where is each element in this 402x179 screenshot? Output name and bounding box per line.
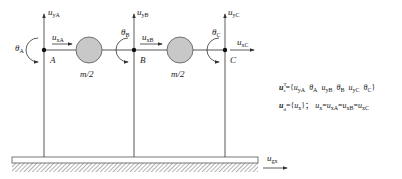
label-uxA: uxA	[52, 33, 64, 43]
label-node-A: A	[50, 56, 56, 65]
ground	[12, 157, 258, 172]
label-uyC: uyC	[228, 8, 240, 18]
label-uxC: uxC	[237, 38, 249, 48]
equation-us: uTs={uyA θA uyB θB uyC θC}	[279, 82, 375, 93]
label-uyB: uyB	[137, 8, 149, 18]
label-thetaA: θA	[15, 44, 24, 54]
mass-2	[167, 37, 193, 63]
label-mass-2: m/2	[171, 70, 185, 79]
label-ground-motion: ugx	[267, 154, 278, 164]
label-thetaB: θB	[121, 28, 129, 38]
mass-1	[76, 37, 102, 63]
label-node-B: B	[140, 56, 146, 65]
label-node-C: C	[230, 56, 236, 65]
label-uxB: uxB	[142, 33, 154, 43]
label-uyA: uyA	[48, 8, 60, 18]
vertical-dof-arrows	[44, 14, 225, 50]
label-mass-1: m/2	[80, 70, 94, 79]
equation-ud: ud={ux}； ux=uxA=uxB=uxC	[279, 102, 369, 112]
columns	[44, 50, 225, 157]
label-thetaC: θC	[212, 28, 220, 38]
